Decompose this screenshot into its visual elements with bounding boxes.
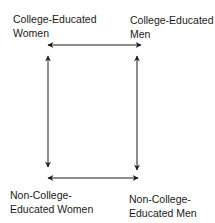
arrows-layer: [0, 0, 215, 223]
